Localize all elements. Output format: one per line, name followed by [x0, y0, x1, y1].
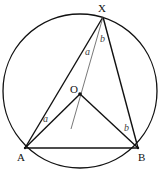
- angle-label-a-bottom: a: [43, 113, 48, 124]
- label-b: B: [138, 151, 145, 163]
- segment-xa: [25, 17, 103, 148]
- angle-label-b-top: b: [100, 33, 105, 44]
- segment-ob: [80, 94, 138, 148]
- point-a: [24, 147, 26, 149]
- segment-xb: [103, 17, 138, 148]
- line-xo-extended: [71, 17, 103, 129]
- label-x: X: [98, 2, 106, 14]
- angle-label-a-top: a: [85, 46, 90, 57]
- center-point-o: [78, 92, 82, 96]
- label-o: O: [70, 83, 78, 95]
- geometry-diagram: X O A B a b a b: [0, 0, 160, 169]
- point-b: [137, 147, 139, 149]
- label-a: A: [17, 151, 25, 163]
- angle-label-b-bottom: b: [124, 122, 129, 133]
